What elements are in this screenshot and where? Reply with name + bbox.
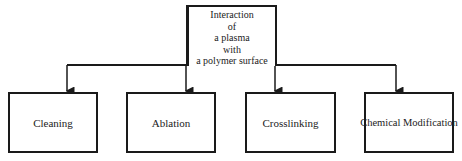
node-cleaning: Cleaning	[8, 92, 98, 153]
root-line: of	[228, 21, 236, 33]
root-line: a plasma	[214, 32, 249, 44]
root-line: a polymer surface	[196, 55, 268, 67]
node-label: Ablation	[152, 117, 191, 129]
node-label: Cleaning	[33, 117, 73, 129]
node-crosslinking: Crosslinking	[245, 92, 336, 153]
root-node: Interaction of a plasma with a polymer s…	[187, 5, 277, 66]
node-chemical-modification: Chemical Modification	[364, 92, 454, 153]
node-label: Chemical Modification	[360, 117, 458, 128]
node-label: Crosslinking	[262, 117, 318, 129]
node-ablation: Ablation	[126, 92, 216, 153]
root-line: with	[223, 44, 241, 56]
root-line: Interaction	[210, 9, 253, 21]
